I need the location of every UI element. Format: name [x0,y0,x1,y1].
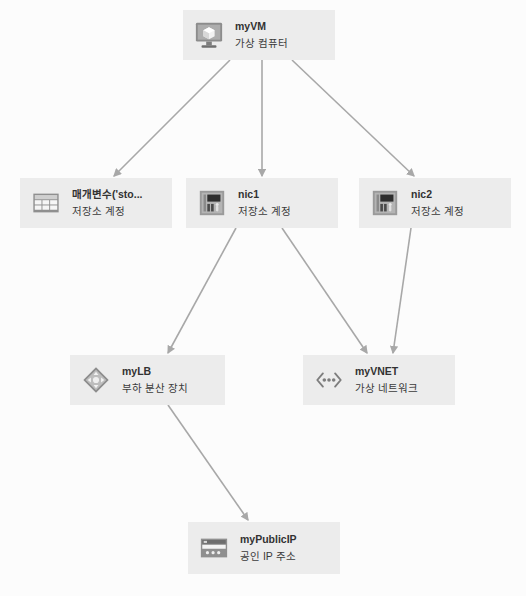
edge-nic1-to-myLB [168,228,236,353]
node-text: myLB 부하 분산 장치 [122,364,188,396]
node-text: nic1 저장소 계정 [238,187,291,219]
node-mylb[interactable]: myLB 부하 분산 장치 [70,355,225,405]
node-storage-parameter[interactable]: 매개변수('sto... 저장소 계정 [20,178,172,228]
node-title: myPublicIP [240,532,297,547]
node-subtitle: 가상 네트워크 [355,380,418,396]
node-title: myVNET [355,364,418,379]
edge-layer [0,0,526,596]
node-text: 매개변수('sto... 저장소 계정 [72,187,143,219]
node-mypublicip[interactable]: myPublicIP 공인 IP 주소 [188,522,340,574]
edge-myVM-to-storageParam [114,60,230,176]
node-myvnet[interactable]: myVNET 가상 네트워크 [303,355,455,405]
node-text: myPublicIP 공인 IP 주소 [240,532,297,564]
node-title: myLB [122,364,188,379]
node-title: nic2 [411,187,464,202]
virtual-machine-icon [194,20,224,50]
public-ip-icon [199,533,229,563]
node-title: 매개변수('sto... [72,187,143,202]
node-title: nic1 [238,187,291,202]
node-subtitle: 부하 분산 장치 [122,380,188,396]
network-interface-icon [370,188,400,218]
node-text: nic2 저장소 계정 [411,187,464,219]
node-subtitle: 저장소 계정 [72,203,143,219]
node-text: myVM 가상 컴퓨터 [235,19,288,51]
storage-table-icon [31,188,61,218]
node-nic1[interactable]: nic1 저장소 계정 [186,178,338,228]
node-subtitle: 공인 IP 주소 [240,548,297,564]
diagram-canvas: myVM 가상 컴퓨터 매개변수('sto... 저장소 계정 [0,0,526,596]
node-subtitle: 가상 컴퓨터 [235,35,288,51]
edge-myVM-to-nic2 [292,60,414,176]
network-interface-icon [197,188,227,218]
node-nic2[interactable]: nic2 저장소 계정 [359,178,511,228]
node-myvm[interactable]: myVM 가상 컴퓨터 [183,10,335,60]
edge-nic2-to-myVNET [393,228,411,353]
load-balancer-icon [81,365,111,395]
node-title: myVM [235,19,288,34]
node-subtitle: 저장소 계정 [238,203,291,219]
virtual-network-icon [314,365,344,395]
node-text: myVNET 가상 네트워크 [355,364,418,396]
edge-myLB-to-myPublicIP [168,405,248,520]
edge-nic1-to-myVNET [282,228,367,353]
node-subtitle: 저장소 계정 [411,203,464,219]
